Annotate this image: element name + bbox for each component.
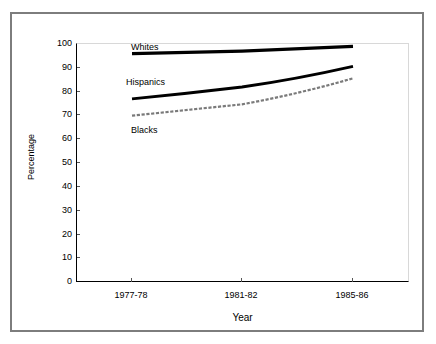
- y-tick-label-100: 100: [44, 39, 72, 48]
- y-tick-label-20: 20: [44, 230, 72, 239]
- series-line-hispanics: [132, 66, 353, 99]
- x-tick-label-1977-78: 1977-78: [96, 290, 166, 300]
- plot-area: Whites Hispanics Blacks: [76, 43, 409, 282]
- x-axis-title: Year: [76, 312, 409, 323]
- y-tick-label-90: 90: [44, 63, 72, 72]
- x-tick-mark-1985-86: [352, 278, 353, 282]
- y-axis-tick-labels: 100 90 80 70 60 50 40 30 20 10 0: [40, 0, 72, 344]
- series-line-blacks: [132, 78, 353, 115]
- y-tick-label-0: 0: [44, 277, 72, 286]
- series-line-whites: [132, 46, 353, 53]
- series-label-hispanics: Hispanics: [126, 77, 165, 87]
- y-tick-label-60: 60: [44, 134, 72, 143]
- x-tick-label-1985-86: 1985-86: [317, 290, 387, 300]
- y-tick-label-50: 50: [44, 158, 72, 167]
- y-tick-label-80: 80: [44, 87, 72, 96]
- y-tick-label-10: 10: [44, 253, 72, 262]
- series-label-blacks: Blacks: [131, 125, 158, 135]
- x-tick-mark-1981-82: [241, 278, 242, 282]
- y-tick-label-70: 70: [44, 110, 72, 119]
- y-tick-label-40: 40: [44, 182, 72, 191]
- chart-figure: 100 90 80 70 60 50 40 30 20 10 0 Percent…: [0, 0, 436, 344]
- x-tick-mark-1977-78: [131, 278, 132, 282]
- x-tick-label-1981-82: 1981-82: [206, 290, 276, 300]
- y-axis-title: Percentage: [26, 117, 36, 197]
- y-tick-label-30: 30: [44, 206, 72, 215]
- series-label-whites: Whites: [131, 42, 159, 52]
